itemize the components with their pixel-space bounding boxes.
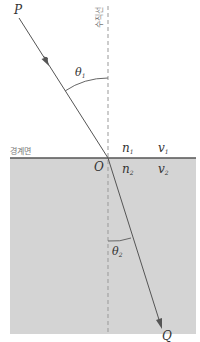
boundary-label: 경계면 (10, 146, 31, 156)
normal-line-label: 수직선 (94, 7, 104, 28)
origin-label: O (94, 160, 104, 174)
medium-2-region (10, 158, 196, 334)
refraction-diagram: P Q O θ1 θ2 n1 n2 v1 v2 경계면 수직선 (0, 0, 200, 342)
point-q-label: Q (162, 329, 172, 342)
v1-label: v1 (158, 141, 169, 155)
n1-label: n1 (122, 141, 134, 155)
theta1-label: θ1 (75, 66, 85, 79)
theta1-arc (65, 78, 108, 91)
point-p-label: P (13, 3, 23, 17)
incident-ray (19, 18, 108, 158)
